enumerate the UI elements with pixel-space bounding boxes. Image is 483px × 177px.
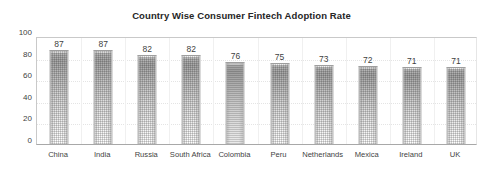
x-axis: ChinaIndiaRussiaSouth AfricaColombiaPeru… (36, 150, 477, 166)
bar[interactable] (270, 63, 289, 144)
y-axis-tick-label: 100 (6, 29, 32, 37)
bar[interactable] (402, 67, 421, 144)
plot-area: 87878282767573727171 (36, 37, 477, 145)
bar[interactable] (94, 50, 113, 144)
x-axis-category-label: India (80, 150, 124, 160)
y-axis-tick-label: 80 (6, 51, 32, 59)
x-axis-category-label: UK (433, 150, 477, 160)
bar-value-label: 82 (169, 45, 213, 54)
y-axis-tick-label: 20 (6, 115, 32, 123)
chart-container: Country Wise Consumer Fintech Adoption R… (0, 0, 483, 177)
x-axis-category-label: Ireland (389, 150, 433, 160)
x-axis-category-label: Colombia (212, 150, 256, 160)
bar-slot (81, 38, 125, 144)
x-axis-category-label: China (36, 150, 80, 160)
bar-value-label: 72 (346, 56, 390, 65)
bar-value-label: 73 (302, 55, 346, 64)
x-axis-category-label: Russia (124, 150, 168, 160)
bar-slot (346, 38, 390, 144)
bar-slot (37, 38, 81, 144)
bar-value-label: 71 (390, 57, 434, 66)
chart-title: Country Wise Consumer Fintech Adoption R… (0, 10, 483, 21)
bar-value-label: 76 (213, 52, 257, 61)
bar[interactable] (182, 55, 201, 144)
x-axis-category-label: Netherlands (301, 150, 345, 160)
y-axis-tick-label: 40 (6, 94, 32, 102)
bar-value-label: 75 (258, 53, 302, 62)
bar-value-label: 71 (434, 57, 478, 66)
bar-slot (434, 38, 478, 144)
bar-value-label: 87 (81, 40, 125, 49)
bar[interactable] (314, 65, 333, 144)
bar-value-label: 87 (37, 40, 81, 49)
bar[interactable] (226, 62, 245, 144)
y-axis-tick-label: 60 (6, 72, 32, 80)
bar-slot (390, 38, 434, 144)
bar[interactable] (358, 66, 377, 144)
bar[interactable] (446, 67, 465, 144)
x-axis-category-label: Mexica (345, 150, 389, 160)
bar[interactable] (50, 50, 69, 144)
y-axis-tick-label: 0 (6, 137, 32, 145)
bar-value-label: 82 (125, 45, 169, 54)
x-axis-category-label: Peru (257, 150, 301, 160)
x-axis-category-label: South Africa (168, 150, 212, 160)
bar[interactable] (138, 55, 157, 144)
y-axis: 020406080100 (6, 33, 32, 145)
